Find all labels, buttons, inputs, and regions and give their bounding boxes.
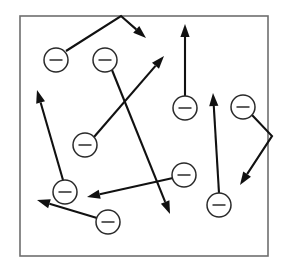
charge-3	[173, 96, 197, 120]
charge-9	[96, 210, 120, 234]
charge-vector-diagram	[0, 0, 290, 272]
charge-5	[73, 133, 97, 157]
charge-7	[207, 193, 231, 217]
charge-6	[172, 163, 196, 187]
charge-1	[44, 48, 68, 72]
diagram-canvas	[0, 0, 290, 272]
charge-8	[53, 180, 77, 204]
charge-4	[231, 95, 255, 119]
charge-2	[93, 48, 117, 72]
